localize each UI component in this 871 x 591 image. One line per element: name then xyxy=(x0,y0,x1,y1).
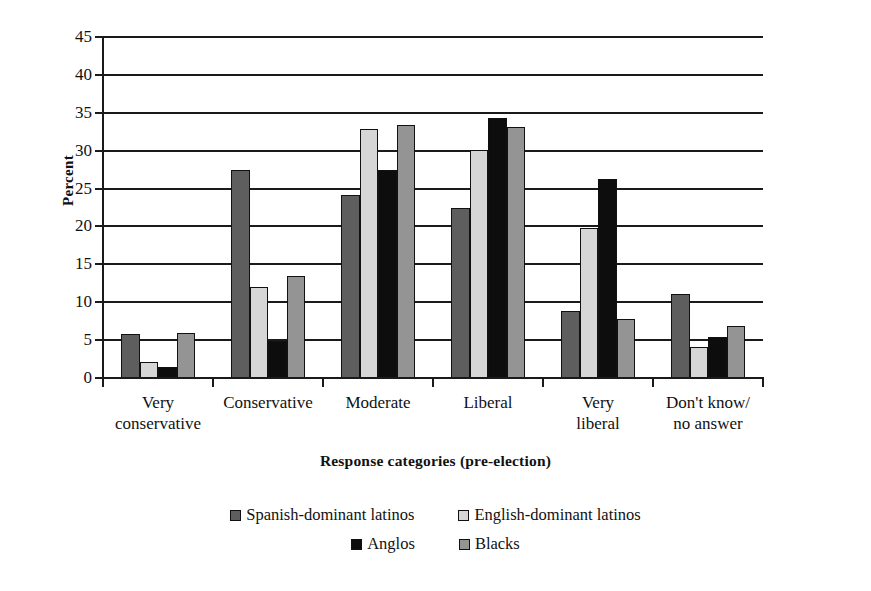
legend-item[interactable]: Spanish-dominant latinos xyxy=(230,505,414,525)
legend-swatch-icon xyxy=(230,510,241,521)
x-axis-tick-labels: VeryconservativeConservativeModerateLibe… xyxy=(103,392,763,444)
bar xyxy=(268,341,287,378)
bar xyxy=(140,362,159,378)
category-tick xyxy=(542,378,544,387)
y-tick-label: 15 xyxy=(52,255,92,272)
bar xyxy=(177,333,196,378)
x-tick-label-line: no answer xyxy=(633,413,783,434)
legend-label: Spanish-dominant latinos xyxy=(246,505,414,525)
bar xyxy=(360,129,379,378)
bar xyxy=(121,334,140,378)
category-tick xyxy=(652,378,654,387)
y-tick-label: 0 xyxy=(52,369,92,386)
chart-legend: Spanish-dominant latinosEnglish-dominant… xyxy=(0,505,871,563)
category-tick xyxy=(762,378,764,387)
x-tick-label-line: Don't know/ xyxy=(633,392,783,413)
legend-row: AnglosBlacks xyxy=(0,534,871,554)
bar-group xyxy=(543,37,653,378)
bar xyxy=(580,228,599,378)
bar xyxy=(470,150,489,378)
y-tick-label: 40 xyxy=(52,66,92,83)
bar xyxy=(231,170,250,378)
bar xyxy=(287,276,306,378)
legend-label: English-dominant latinos xyxy=(474,505,640,525)
legend-item[interactable]: Anglos xyxy=(351,534,415,554)
x-axis-title: Response categories (pre-election) xyxy=(0,452,871,470)
y-tick-label: 5 xyxy=(52,331,92,348)
legend-label: Blacks xyxy=(475,534,520,554)
x-tick-label: Don't know/no answer xyxy=(633,392,783,434)
bar-group xyxy=(433,37,543,378)
bar xyxy=(250,287,269,378)
category-tick xyxy=(212,378,214,387)
bar xyxy=(690,347,709,378)
category-tick xyxy=(432,378,434,387)
bar xyxy=(451,208,470,379)
bar xyxy=(561,311,580,378)
y-tick-label: 30 xyxy=(52,142,92,159)
legend-swatch-icon xyxy=(459,539,470,550)
bar xyxy=(671,294,690,378)
x-tick-label-line: conservative xyxy=(83,413,233,434)
bar xyxy=(507,127,526,378)
category-tick xyxy=(322,378,324,387)
bars-layer xyxy=(103,37,763,378)
x-axis-line xyxy=(102,377,764,379)
y-tick-label: 25 xyxy=(52,180,92,197)
legend-row: Spanish-dominant latinosEnglish-dominant… xyxy=(0,505,871,525)
y-tick-label: 10 xyxy=(52,293,92,310)
bar xyxy=(397,125,416,378)
bar xyxy=(617,319,636,378)
category-tick xyxy=(102,378,104,387)
legend-swatch-icon xyxy=(351,539,362,550)
y-axis-line xyxy=(102,36,104,379)
legend-label: Anglos xyxy=(367,534,415,554)
bar-chart: Percent 454035302520151050 Veryconservat… xyxy=(0,0,871,591)
y-tick-label: 35 xyxy=(52,104,92,121)
bar-group xyxy=(103,37,213,378)
legend-swatch-icon xyxy=(458,510,469,521)
bar xyxy=(488,118,507,378)
bar xyxy=(727,326,746,378)
legend-item[interactable]: Blacks xyxy=(459,534,520,554)
y-tick-label: 45 xyxy=(52,28,92,45)
y-tick-label: 20 xyxy=(52,217,92,234)
bar-group xyxy=(323,37,433,378)
legend-item[interactable]: English-dominant latinos xyxy=(458,505,640,525)
bar xyxy=(708,337,727,378)
bar-group xyxy=(653,37,763,378)
bar-group xyxy=(213,37,323,378)
bar xyxy=(341,195,360,378)
plot-area xyxy=(103,37,763,378)
bar xyxy=(598,179,617,378)
bar xyxy=(378,170,397,378)
